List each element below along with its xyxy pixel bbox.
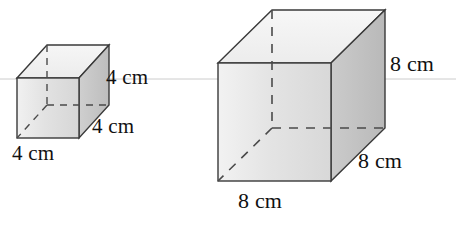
cubes-vector-canvas	[0, 0, 456, 230]
small-cube-front-face	[17, 78, 79, 138]
large-cube-width-label: 8 cm	[238, 190, 282, 212]
large-cube-height-label: 8 cm	[390, 53, 434, 75]
small-cube-depth-label: 4 cm	[92, 116, 134, 137]
large-cube-depth-label: 8 cm	[358, 150, 402, 172]
small-cube-height-label: 4 cm	[106, 67, 148, 88]
geometry-figure: 4 cm 4 cm 4 cm 8 cm 8 cm 8 cm	[0, 0, 456, 230]
small-cube-width-label: 4 cm	[12, 143, 54, 164]
